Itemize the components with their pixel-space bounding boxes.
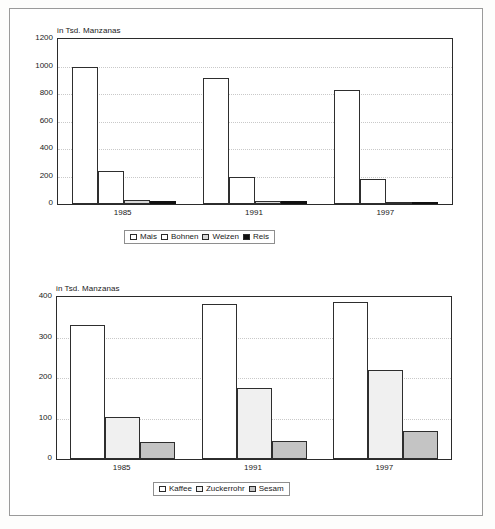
legend-swatch-icon (196, 486, 203, 492)
y-tick-label: 1200 (23, 33, 53, 42)
legend-label: Sesam (259, 485, 284, 493)
x-tick-label: 1985 (102, 463, 142, 472)
y-tick-label: 600 (23, 116, 53, 125)
gridline (58, 122, 452, 123)
y-tick-label: 1000 (23, 61, 53, 70)
chart2-axis-title: in Tsd. Manzanas (56, 284, 120, 293)
x-tick-label: 1991 (233, 463, 273, 472)
legend-label: Weizen (212, 233, 239, 241)
bar-reis-1997 (412, 202, 438, 204)
y-tick-label: 800 (23, 88, 53, 97)
bar-bohnen-1985 (98, 171, 124, 204)
bar-weizen-1985 (124, 200, 150, 204)
legend-entry-kaffee: Kaffee (159, 485, 192, 493)
x-tick-label: 1997 (365, 208, 405, 217)
legend-entry-bohnen: Bohnen (161, 233, 199, 241)
bar-zuckerrohr-1985 (105, 417, 140, 459)
document-page: in Tsd. Manzanas 020040060080010001200 1… (0, 0, 495, 529)
bar-sesam-1985 (140, 442, 175, 459)
bar-sesam-1991 (272, 441, 307, 459)
bar-mais-1991 (203, 78, 229, 204)
bar-reis-1985 (150, 201, 176, 204)
legend-swatch-icon (159, 486, 166, 492)
bar-mais-1997 (334, 90, 360, 204)
legend-entry-reis: Reis (243, 233, 269, 241)
y-tick-label: 300 (22, 332, 52, 341)
bar-zuckerrohr-1991 (237, 388, 272, 459)
y-tick-label: 400 (23, 143, 53, 152)
legend-swatch-icon (130, 234, 137, 240)
y-tick-label: 200 (22, 372, 52, 381)
bar-weizen-1997 (386, 202, 412, 204)
gridline (58, 149, 452, 150)
gridline (58, 94, 452, 95)
legend-swatch-icon (249, 486, 256, 492)
legend-label: Reis (253, 233, 269, 241)
legend-entry-zuckerrohr: Zuckerrohr (196, 485, 245, 493)
bar-zuckerrohr-1997 (368, 370, 403, 459)
chart1-axis-title: in Tsd. Manzanas (57, 26, 121, 35)
legend-entry-mais: Mais (130, 233, 157, 241)
chart2-legend: KaffeeZuckerrohrSesam (153, 482, 290, 496)
gridline (57, 338, 451, 339)
legend-entry-weizen: Weizen (202, 233, 239, 241)
y-tick-label: 0 (23, 198, 53, 207)
x-tick-label: 1985 (103, 208, 143, 217)
y-tick-label: 200 (23, 171, 53, 180)
legend-label: Bohnen (171, 233, 199, 241)
bar-bohnen-1991 (229, 177, 255, 204)
x-tick-label: 1991 (234, 208, 274, 217)
chart-basic-grains: in Tsd. Manzanas 020040060080010001200 1… (24, 26, 454, 256)
legend-label: Mais (140, 233, 157, 241)
bar-bohnen-1997 (360, 179, 386, 204)
bar-reis-1991 (281, 201, 307, 204)
chart1-legend: MaisBohnenWeizenReis (124, 230, 275, 244)
legend-label: Zuckerrohr (206, 485, 245, 493)
y-tick-label: 100 (22, 413, 52, 422)
chart-export-crops: in Tsd. Manzanas 0100200300400 198519911… (28, 284, 458, 509)
bar-kaffee-1991 (202, 304, 237, 459)
bar-mais-1985 (72, 67, 98, 204)
y-tick-label: 400 (22, 291, 52, 300)
chart2-plot-area (56, 296, 452, 460)
chart1-plot-area (57, 38, 453, 205)
bar-kaffee-1985 (70, 325, 105, 459)
y-tick-label: 0 (22, 453, 52, 462)
legend-label: Kaffee (169, 485, 192, 493)
x-tick-label: 1997 (364, 463, 404, 472)
legend-swatch-icon (161, 234, 168, 240)
legend-swatch-icon (243, 234, 250, 240)
legend-entry-sesam: Sesam (249, 485, 284, 493)
gridline (58, 67, 452, 68)
bar-weizen-1991 (255, 201, 281, 204)
bar-kaffee-1997 (333, 302, 368, 459)
legend-swatch-icon (202, 234, 209, 240)
bar-sesam-1997 (403, 431, 438, 459)
